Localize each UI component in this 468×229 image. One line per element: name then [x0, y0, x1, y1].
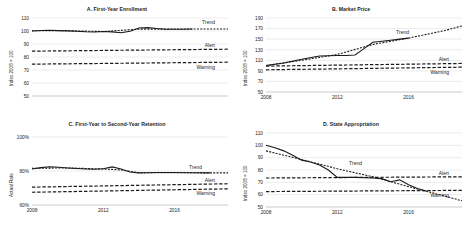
series-alert: [32, 49, 228, 51]
y-tick-label: 110: [255, 131, 263, 136]
panel-c-ylabel: Actual Rate: [9, 173, 14, 197]
chart-panel-a: A. First-Year Enrollment Index 2008 = 10…: [0, 0, 234, 114]
x-tick-label: 2008: [261, 210, 272, 215]
chart-panel-b: B. Market Price Index 2008 = 100 5070901…: [234, 0, 468, 114]
annotation-warning: Warning: [431, 192, 450, 198]
y-tick-label: 80: [258, 168, 264, 173]
x-tick-label: 2012: [332, 95, 343, 100]
annotation-warning: Warning: [197, 190, 216, 196]
panel-a-ylabel: Index 2008 = 100: [9, 50, 14, 86]
y-tick-label: 80: [24, 55, 30, 60]
x-tick-label: 2016: [403, 95, 414, 100]
y-tick-label: 110: [255, 58, 263, 63]
y-tick-label: 70: [24, 68, 30, 73]
y-tick-label: 80%: [19, 169, 29, 174]
panel-b-plot: 507090110130150170190200820122016TrendAl…: [234, 0, 468, 114]
y-tick-label: 150: [255, 37, 263, 42]
annotation-alert: Alert: [205, 42, 216, 48]
y-tick-label: 130: [255, 48, 263, 53]
panel-c-plot: 60%80%100%200820122016TrendAlertWarning: [0, 115, 234, 229]
y-tick-label: 100%: [17, 135, 30, 140]
x-tick-label: 2008: [261, 95, 272, 100]
panel-a-title: A. First-Year Enrollment: [0, 6, 234, 12]
panel-b-title: B. Market Price: [234, 6, 468, 12]
chart-panel-c: C. First-Year to Second-Year Retention A…: [0, 115, 234, 229]
x-tick-label: 2008: [27, 208, 38, 213]
x-tick-label: 2012: [98, 208, 109, 213]
x-tick-label: 2012: [332, 210, 343, 215]
annotation-alert: Alert: [439, 170, 450, 176]
panel-d-ylabel: Index 2008 = 100: [243, 165, 248, 201]
y-tick-label: 190: [255, 16, 263, 21]
x-tick-label: 2016: [169, 208, 180, 213]
chart-panel-d: D. State Appropriation Index 2008 = 100 …: [234, 115, 468, 229]
annotation-trend: Trend: [396, 29, 409, 35]
series-actual: [266, 145, 426, 191]
annotation-alert: Alert: [439, 56, 450, 62]
y-tick-label: 60: [24, 81, 30, 86]
annotation-trend: Trend: [189, 164, 202, 170]
panel-a-plot: 5060708090100110TrendAlertWarning: [0, 0, 234, 114]
annotation-warning: Warning: [197, 64, 216, 70]
panel-d-plot: 5060708090100110200820122016TrendAlertWa…: [234, 115, 468, 229]
y-tick-label: 110: [21, 16, 29, 21]
y-tick-label: 100: [21, 29, 29, 34]
panel-b-ylabel: Index 2008 = 100: [243, 50, 248, 86]
y-tick-label: 60: [258, 192, 264, 197]
annotation-warning: Warning: [431, 69, 450, 75]
y-tick-label: 90: [258, 155, 264, 160]
figure-panel-grid: A. First-Year Enrollment Index 2008 = 10…: [0, 0, 468, 229]
annotation-trend: Trend: [349, 160, 362, 166]
x-tick-label: 2016: [403, 210, 414, 215]
y-tick-label: 90: [258, 69, 264, 74]
panel-d-title: D. State Appropriation: [234, 121, 468, 127]
series-trend: [266, 26, 462, 66]
series-alert: [266, 63, 462, 66]
y-tick-label: 170: [255, 26, 263, 31]
y-tick-label: 70: [258, 79, 264, 84]
annotation-alert: Alert: [205, 177, 216, 183]
series-alert: [32, 184, 228, 187]
y-tick-label: 100: [255, 143, 263, 148]
y-tick-label: 70: [258, 180, 264, 185]
y-tick-label: 50: [24, 94, 30, 99]
annotation-trend: Trend: [202, 19, 215, 25]
y-tick-label: 90: [24, 42, 30, 47]
panel-c-title: C. First-Year to Second-Year Retention: [0, 121, 234, 127]
